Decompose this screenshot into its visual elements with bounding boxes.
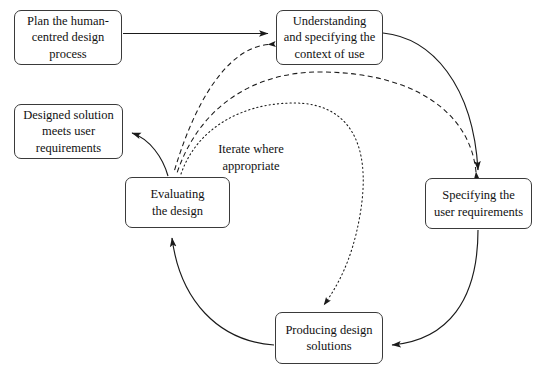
iterate-note-text: Iterate where appropriate <box>218 142 284 173</box>
node-plan-label: Plan the human- centred design process <box>27 13 109 63</box>
node-producing-design-solutions[interactable]: Producing design solutions <box>275 312 383 364</box>
edge-understand-to-specifying <box>383 33 478 170</box>
node-evaluating-label: Evaluating the design <box>150 186 204 219</box>
node-specifying-label: Specifying the user requirements <box>434 187 523 220</box>
node-plan[interactable]: Plan the human- centred design process <box>14 10 122 65</box>
node-designed-solution[interactable]: Designed solution meets user requirement… <box>14 104 123 159</box>
diagram-canvas: Plan the human- centred design process U… <box>0 0 544 380</box>
node-specifying-user-requirements[interactable]: Specifying the user requirements <box>425 178 532 229</box>
node-designed-solution-label: Designed solution meets user requirement… <box>23 107 114 157</box>
edge-evaluating-to-designed-solution <box>132 133 168 176</box>
edge-producing-to-evaluating <box>172 238 274 345</box>
node-producing-label: Producing design solutions <box>285 322 372 355</box>
node-evaluating-the-design[interactable]: Evaluating the design <box>125 177 230 228</box>
edge-specifying-to-producing <box>392 230 478 345</box>
iterate-where-appropriate-note: Iterate where appropriate <box>205 124 297 175</box>
node-understanding-context-of-use[interactable]: Understanding and specifying the context… <box>276 10 383 65</box>
node-understanding-label: Understanding and specifying the context… <box>284 13 376 63</box>
